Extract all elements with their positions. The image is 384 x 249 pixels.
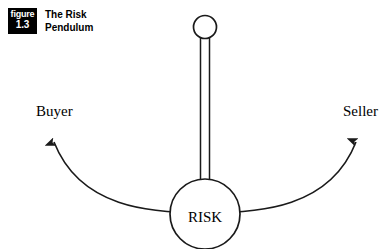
pendulum-bob (194, 16, 217, 39)
figure-container: figure 1.3 The Risk Pendulum RISK Buyer … (0, 0, 384, 249)
buyer-label: Buyer (36, 103, 73, 120)
pendulum-diagram: RISK (0, 0, 384, 249)
seller-label: Seller (343, 103, 378, 120)
risk-label: RISK (188, 209, 222, 225)
